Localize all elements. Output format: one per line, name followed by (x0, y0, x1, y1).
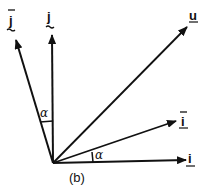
vector-diagram: α α j j u i i (b) (0, 0, 204, 192)
svg-text:i: i (188, 151, 192, 166)
angle-label-alpha-i: α (95, 148, 103, 162)
angle-marker-i (92, 152, 93, 162)
svg-text:i: i (181, 114, 185, 129)
vector-u-arrow (53, 27, 187, 163)
figure-caption: (b) (69, 170, 85, 185)
svg-text:j: j (8, 13, 13, 28)
label-i-bar: i (179, 112, 188, 129)
svg-text:j: j (46, 9, 51, 24)
angle-label-alpha-j: α (40, 106, 48, 120)
label-u: u (189, 8, 198, 23)
vector-j-arrow (52, 35, 53, 163)
vector-j-bar-arrow (16, 40, 53, 163)
vector-i-bar-arrow (53, 121, 176, 163)
angle-marker-j (40, 121, 53, 122)
svg-text:u: u (189, 8, 197, 23)
label-i: i (186, 151, 195, 166)
label-j: j (46, 9, 54, 28)
label-j-bar: j (7, 10, 15, 31)
vector-i-arrow (53, 160, 186, 163)
